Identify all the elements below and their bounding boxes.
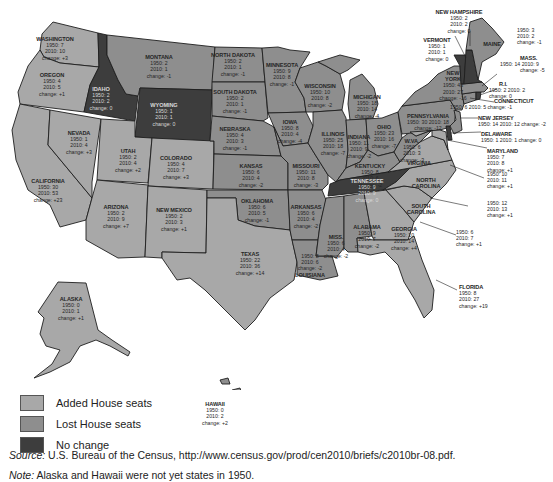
- label-hawaii: HAWAII1950: 02010: 2change: +2: [202, 401, 228, 426]
- label-alaska: ALASKA1950: 02010: 1change: +1: [58, 296, 84, 321]
- label-new-york: NEW YORK1950: 432010: 27change: -16: [439, 70, 466, 101]
- label-south-dakota: SOUTH DAKOTA1950: 22010: 1change: -1: [213, 89, 256, 114]
- label-south-carolina-values: 1950: 62010: 7change: +1: [456, 229, 482, 248]
- source-note: Source: U.S. Bureau of the Census, http:…: [9, 449, 456, 461]
- label-nebraska: NEBRASKA1950: 42010: 3change: -1: [220, 126, 251, 151]
- label-west-virginia: W.VA.1950: 62010: 3change: -3: [400, 138, 425, 163]
- label-alabama: ALABAMA1950: 92010: 7change: -2: [353, 224, 381, 249]
- label-michigan: MICHIGAN1950: 182010: 14change: -4: [353, 94, 380, 119]
- legend-item-lost: Lost House seats: [20, 413, 152, 434]
- label-wisconsin: WISCONSIN1950: 102010: 8change: -2: [304, 83, 335, 108]
- label-new-hampshire: NEW HAMPSHIRE1950: 22010: 2change: 0: [436, 9, 483, 34]
- label-utah: UTAH1950: 22010: 4change: +2: [115, 148, 141, 173]
- label-iowa: IOWA1950: 82010: 4change: -4: [278, 119, 303, 144]
- label-massachusetts: MASS.1950: 14 2010: 9change: -5: [520, 55, 545, 74]
- label-louisiana: 1950: 82010: 6change: -2LOUISIANA: [295, 253, 325, 278]
- label-north-carolina-name: NORTH CAROLINA: [404, 177, 448, 189]
- label-maine-values: 1950: 32010: 2change: -1: [517, 27, 542, 46]
- label-maryland: MARYLAND1950: 72010: 8change: +1: [487, 148, 518, 173]
- label-washington: WASHINGTON1950: 72010: 10change: +3: [36, 36, 73, 61]
- label-maine-name: MAINE: [483, 41, 501, 47]
- label-pennsylvania: PENNSYLVANIA1950: 30 2010: 18change: -12: [407, 113, 449, 132]
- label-illinois: ILLINOIS1950: 252010: 18change: -7: [321, 131, 346, 156]
- label-florida: FLORIDA1950: 82010: 27change: +19: [459, 284, 488, 309]
- label-rhode-island: R.I.1950: 2 2010: 2change: 0: [499, 81, 525, 100]
- label-arizona: ARIZONA1950: 22010: 9change: +7: [103, 204, 129, 229]
- label-montana: MONTANA1950: 22010: 1change: -1: [145, 54, 172, 79]
- label-california: CALIFORNIA1950: 302010: 53change: +23: [31, 178, 65, 203]
- label-north-dakota: NORTH DAKOTA1950: 22010: 1change: -1: [211, 52, 255, 77]
- label-delaware: DELAWARE1950: 1 2010: 1 change: 0: [481, 131, 541, 143]
- label-indiana: INDIANA1950: 112010: 9change: -2: [347, 134, 372, 159]
- label-vermont: VERMONT1950: 12010: 1change: 0: [423, 37, 450, 62]
- label-south-carolina-name: SOUTH CAROLINA: [401, 203, 441, 215]
- us-map: [0, 0, 553, 390]
- label-oklahoma: OKLAHOMA1950: 62010: 5change: -1: [241, 198, 273, 223]
- label-mississippi: MISS.1950: 62010: 4change: -2: [324, 234, 349, 259]
- label-new-mexico: NEW MEXICO1950: 22010: 3change: +1: [156, 207, 192, 232]
- state-hawaii: [220, 378, 294, 390]
- label-oregon: OREGON1950: 42010: 5change: +1: [39, 72, 65, 97]
- label-tennessee: TENNESSEE1950: 92010: 9change: 0: [351, 178, 384, 203]
- label-colorado: COLORADO1950: 42010: 7change: +3: [160, 155, 192, 180]
- label-arkansas: ARKANSAS1950: 62010: 4change: -2: [291, 204, 322, 229]
- label-north-carolina-values: 1950: 122010: 13change: +1: [487, 200, 513, 219]
- alaska-hawaii-note: Note: Alaska and Hawaii were not yet sta…: [9, 469, 254, 481]
- label-nevada: NEVADA1950: 12010: 4change: +3: [66, 130, 92, 155]
- label-texas: TEXAS1950: 222010: 36change: +14: [236, 251, 265, 276]
- label-minnesota: MINNESOTA1950: 92010: 8change: -1: [266, 62, 298, 87]
- legend-swatch-added: [20, 395, 44, 411]
- legend-swatch-lost: [20, 416, 44, 432]
- legend-item-added: Added House seats: [20, 392, 152, 413]
- label-idaho: IDAHO1950: 22010: 2change: 0: [90, 86, 113, 111]
- label-ohio: OHIO1950: 232010: 16change: -7: [372, 124, 397, 149]
- label-connecticut: CONNECTICUT1950: 6 2010: 5 change: -1: [494, 98, 534, 110]
- label-wyoming: WYOMING1950: 12010: 1change: 0: [150, 102, 177, 127]
- state-rhode-island: [476, 92, 481, 100]
- label-missouri: MISSOURI1950: 112010: 8change: -3: [293, 163, 320, 188]
- label-georgia: GEORGIA1950: 102010: 14change: +4: [391, 226, 417, 251]
- label-kansas: KANSAS1950: 62010: 4change: -2: [239, 163, 264, 188]
- label-virginia-values: 1950: 102010: 11change: +1: [487, 171, 513, 190]
- map-legend: Added House seats Lost House seats No ch…: [20, 392, 152, 455]
- label-new-jersey: NEW JERSEY1950: 14 2010: 12 change: -2: [478, 115, 546, 127]
